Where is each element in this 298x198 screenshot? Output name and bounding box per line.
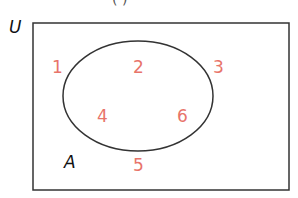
- set-a-label: A: [63, 152, 76, 172]
- venn-diagram: ( ) U A 1 2 3 4 6 5: [0, 0, 298, 198]
- element-2: 2: [133, 57, 144, 77]
- cut-off-heading-fragment: ( ): [112, 0, 127, 7]
- element-4: 4: [97, 106, 108, 126]
- element-5: 5: [133, 155, 144, 175]
- element-6: 6: [177, 106, 188, 126]
- element-3: 3: [213, 57, 224, 77]
- element-1: 1: [52, 57, 63, 77]
- universal-set-label: U: [9, 17, 22, 37]
